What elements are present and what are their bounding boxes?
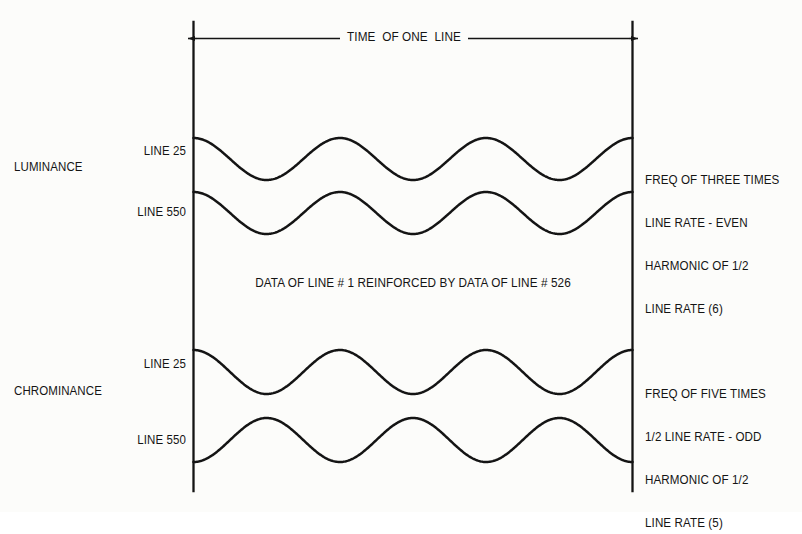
note-chrominance-line-3: HARMONIC OF 1/2 [645,474,766,487]
waveform-trace-layer [194,138,633,462]
waveform-luminance-line-550 [194,192,633,234]
trace-label-luminance-line-25: LINE 25 [64,145,186,158]
note-chrominance: FREQ OF FIVE TIMES 1/2 LINE RATE - ODD H… [645,362,766,534]
note-chrominance-line-2: 1/2 LINE RATE - ODD [645,431,766,444]
dimension-label: TIME OF ONE LINE [345,31,463,44]
group-label-chrominance: CHROMINANCE [14,385,102,398]
waveform-chrominance-line-25 [194,350,633,394]
group-label-luminance: LUMINANCE [14,161,83,174]
center-note: DATA OF LINE # 1 REINFORCED BY DATA OF L… [206,277,620,290]
trace-label-chrominance-line-550: LINE 550 [64,434,186,447]
note-chrominance-line-4: LINE RATE (5) [645,517,766,530]
note-luminance-line-3: HARMONIC OF 1/2 [645,260,779,273]
trace-label-chrominance-line-25: LINE 25 [64,358,186,371]
note-luminance-line-4: LINE RATE (6) [645,303,779,316]
note-luminance-line-1: FREQ OF THREE TIMES [645,174,779,187]
trace-label-luminance-line-550: LINE 550 [64,206,186,219]
note-chrominance-line-1: FREQ OF FIVE TIMES [645,388,766,401]
note-luminance: FREQ OF THREE TIMES LINE RATE - EVEN HAR… [645,148,779,346]
note-luminance-line-2: LINE RATE - EVEN [645,217,779,230]
waveform-chrominance-line-550 [194,418,633,462]
waveform-luminance-line-25 [194,138,633,180]
